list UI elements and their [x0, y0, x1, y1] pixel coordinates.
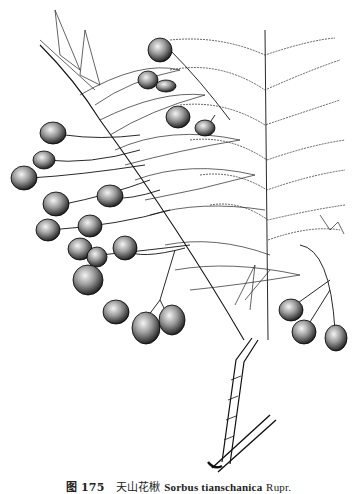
chinese-name: 天山花楸 — [116, 481, 161, 494]
figure-caption: 图 175 天山花楸 Sorbus tianschanica Rupr. — [0, 478, 357, 494]
scientific-name: Sorbus tianschanica — [164, 481, 262, 493]
author-citation: Rupr. — [266, 481, 291, 493]
figure-label: 图 175 — [66, 481, 105, 494]
fruit-clusters — [11, 38, 347, 351]
